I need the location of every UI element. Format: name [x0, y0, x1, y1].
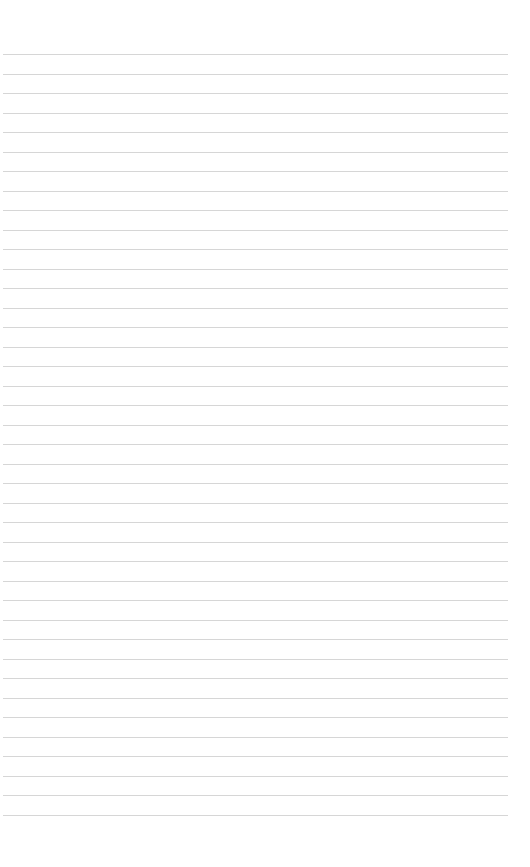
ruled-line	[3, 600, 508, 601]
ruled-line	[3, 561, 508, 562]
ruled-line	[3, 347, 508, 348]
ruled-line	[3, 54, 508, 55]
ruled-line	[3, 366, 508, 367]
ruled-line	[3, 386, 508, 387]
ruled-line	[3, 191, 508, 192]
ruled-line	[3, 795, 508, 796]
ruled-line	[3, 659, 508, 660]
ruled-line	[3, 288, 508, 289]
lined-paper-page	[0, 0, 530, 867]
ruled-line	[3, 522, 508, 523]
ruled-line	[3, 815, 508, 816]
ruled-line	[3, 717, 508, 718]
ruled-line	[3, 132, 508, 133]
ruled-line	[3, 93, 508, 94]
ruled-line	[3, 444, 508, 445]
ruled-line	[3, 581, 508, 582]
ruled-line	[3, 737, 508, 738]
ruled-line	[3, 639, 508, 640]
ruled-line	[3, 756, 508, 757]
ruled-line	[3, 542, 508, 543]
ruled-line	[3, 464, 508, 465]
ruled-line	[3, 678, 508, 679]
ruled-line	[3, 74, 508, 75]
ruled-line	[3, 230, 508, 231]
ruled-line	[3, 308, 508, 309]
ruled-line	[3, 269, 508, 270]
ruled-line	[3, 483, 508, 484]
ruled-line	[3, 171, 508, 172]
ruled-line	[3, 503, 508, 504]
ruled-line	[3, 776, 508, 777]
ruled-line	[3, 113, 508, 114]
ruled-line	[3, 620, 508, 621]
ruled-line	[3, 425, 508, 426]
ruled-line	[3, 210, 508, 211]
ruled-line	[3, 698, 508, 699]
ruled-line	[3, 152, 508, 153]
ruled-line	[3, 405, 508, 406]
ruled-line	[3, 249, 508, 250]
ruled-line	[3, 327, 508, 328]
